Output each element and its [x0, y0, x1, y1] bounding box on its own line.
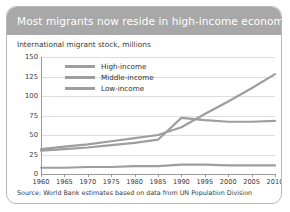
legend-label: Middle-income: [101, 73, 154, 82]
legend-item: High-income: [65, 61, 154, 72]
legend-swatch: [65, 65, 95, 67]
source-note: Source: World Bank estimates based on da…: [17, 189, 252, 197]
chart-card: Most migrants now reside in high-income …: [6, 6, 282, 204]
plot-area: 0255075100125150 19601965197019751980198…: [7, 51, 282, 191]
chart-subtitle: International migrant stock, millions: [17, 40, 151, 49]
title-band: Most migrants now reside in high-income …: [7, 7, 281, 35]
legend-label: High-income: [101, 62, 146, 71]
legend-label: Low-income: [101, 84, 144, 93]
legend-swatch: [65, 76, 95, 78]
legend-item: Low-income: [65, 83, 154, 94]
legend-swatch: [65, 87, 95, 89]
page-title: Most migrants now reside in high-income …: [7, 15, 282, 27]
series-line-low-income: [41, 165, 275, 168]
chart-legend: High-incomeMiddle-incomeLow-income: [65, 61, 154, 94]
legend-item: Middle-income: [65, 72, 154, 83]
